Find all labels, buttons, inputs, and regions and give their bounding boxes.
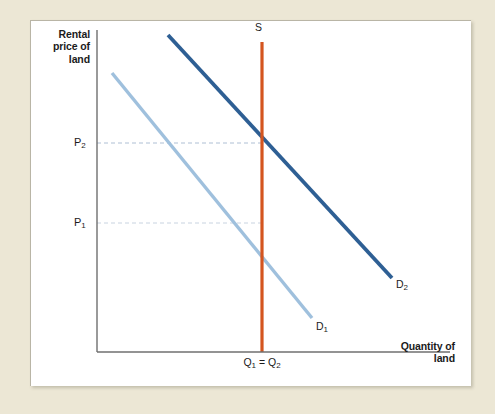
price-label-p2: P2 bbox=[74, 136, 86, 150]
x-axis-title: Quantity ofland bbox=[383, 340, 455, 365]
figure-root: Rentalprice ofland Quantity ofland P2 P1… bbox=[0, 0, 495, 414]
demand-label-2-subscript: 2 bbox=[404, 283, 408, 292]
price-label-p1-subscript: 1 bbox=[81, 221, 85, 230]
demand-label-1-base: D bbox=[316, 320, 324, 332]
demand-label-1-subscript: 1 bbox=[324, 325, 328, 334]
quantity-label-equals: = Q bbox=[256, 356, 276, 368]
supply-curve-label: S bbox=[255, 21, 262, 33]
demand-curve-2-label: D2 bbox=[396, 278, 408, 292]
price-label-p2-subscript: 2 bbox=[81, 141, 85, 150]
demand-curve-1-label: D1 bbox=[316, 320, 328, 334]
quantity-label-q: Q bbox=[243, 356, 251, 368]
price-label-p1: P1 bbox=[74, 216, 86, 230]
figure-panel bbox=[30, 20, 471, 386]
quantity-label-q2-subscript: 2 bbox=[276, 361, 280, 370]
y-axis-title: Rentalprice ofland bbox=[33, 28, 90, 65]
demand-label-2-base: D bbox=[396, 278, 404, 290]
quantity-equilibrium-label: Q1 = Q2 bbox=[232, 356, 292, 370]
